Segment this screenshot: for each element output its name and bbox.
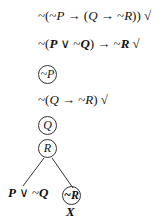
text-fragment: ∨ ~ <box>16 185 39 200</box>
variable-p: P <box>8 185 16 200</box>
variable-q: Q <box>39 185 48 200</box>
branch-left: P ∨ ~Q <box>8 185 48 201</box>
circled-literal-not-r: ~R <box>62 186 81 205</box>
closed-branch-mark: X <box>66 204 75 218</box>
literal-text: ~R <box>64 188 79 203</box>
